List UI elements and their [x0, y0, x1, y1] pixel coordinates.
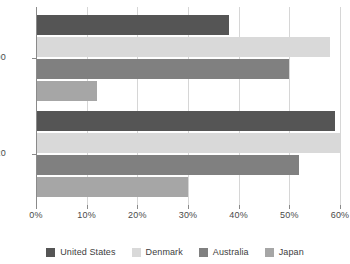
legend-item[interactable]: Australia [199, 247, 249, 257]
x-axis-tick-label: 0% [29, 210, 42, 220]
legend-label: Japan [279, 247, 304, 257]
x-axis-ticks [36, 205, 340, 209]
legend-item[interactable]: Japan [265, 247, 304, 257]
bar [36, 155, 299, 175]
bar [36, 177, 188, 197]
x-axis-tick [289, 205, 290, 209]
bar [36, 81, 97, 101]
bar [36, 37, 330, 57]
legend-swatch-icon [132, 248, 141, 257]
y-axis-line [36, 7, 37, 205]
bar [36, 111, 335, 131]
chart-legend: United StatesDenmarkAustraliaJapan [0, 243, 350, 261]
bar [36, 59, 289, 79]
x-axis-tick-label: 50% [280, 210, 299, 220]
plot-area [36, 7, 340, 205]
plot-wrapper: 19902020 0%10%20%30%40%50%60% [0, 0, 350, 212]
bar [36, 133, 340, 153]
legend-label: Denmark [146, 247, 183, 257]
x-axis-tick [87, 205, 88, 209]
x-axis-tick-label: 60% [331, 210, 350, 220]
legend-swatch-icon [46, 248, 55, 257]
x-axis-tick [137, 205, 138, 209]
y-axis-group-label: 1990 [0, 52, 6, 62]
bar-chart: 19902020 0%10%20%30%40%50%60% United Sta… [0, 0, 350, 264]
legend-item[interactable]: United States [46, 247, 115, 257]
x-axis-tick-label: 10% [77, 210, 96, 220]
x-axis-tick-label: 40% [229, 210, 248, 220]
x-axis-tick [36, 205, 37, 209]
legend-swatch-icon [265, 248, 274, 257]
gridline [340, 7, 341, 205]
bar [36, 15, 229, 35]
legend-item[interactable]: Denmark [132, 247, 183, 257]
x-axis-tick [239, 205, 240, 209]
x-axis-tick-label: 30% [179, 210, 198, 220]
y-axis-group-label: 2020 [0, 148, 6, 158]
x-axis-tick [188, 205, 189, 209]
y-axis-tick [32, 154, 36, 155]
legend-swatch-icon [199, 248, 208, 257]
bars-layer [36, 7, 340, 205]
legend-label: Australia [213, 247, 249, 257]
legend-label: United States [60, 247, 115, 257]
x-axis-tick-label: 20% [128, 210, 147, 220]
x-axis-tick [340, 205, 341, 209]
x-axis-labels: 0%10%20%30%40%50%60% [0, 210, 350, 224]
y-axis-tick [32, 58, 36, 59]
